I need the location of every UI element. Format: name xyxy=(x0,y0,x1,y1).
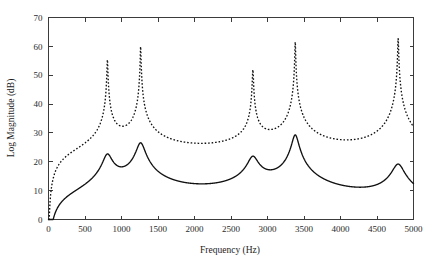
dotted-response-curve xyxy=(49,39,414,220)
y-axis-title: Log Magnitude (dB) xyxy=(6,79,17,158)
y-tick-label: 50 xyxy=(34,70,44,80)
x-tick-label: 3500 xyxy=(295,224,314,234)
x-axis-ticks xyxy=(49,18,414,220)
x-tick-label: 2000 xyxy=(186,224,205,234)
chart-canvas: 0500100015002000250030003500400045005000… xyxy=(0,0,429,264)
x-tick-label: 1500 xyxy=(149,224,168,234)
axis-frame xyxy=(49,18,414,220)
plot-frame xyxy=(49,18,414,220)
y-tick-label: 20 xyxy=(34,157,44,167)
solid-response-curve xyxy=(49,135,414,220)
x-axis-title: Frequency (Hz) xyxy=(200,245,260,256)
y-axis-tick-labels: 010203040506070 xyxy=(34,13,44,225)
data-series-group xyxy=(49,39,414,220)
x-tick-label: 500 xyxy=(78,224,92,234)
x-tick-label: 4000 xyxy=(332,224,351,234)
x-tick-label: 5000 xyxy=(405,224,424,234)
y-tick-label: 70 xyxy=(34,13,44,23)
x-tick-label: 3000 xyxy=(259,224,278,234)
x-tick-label: 1000 xyxy=(113,224,132,234)
x-tick-label: 4500 xyxy=(368,224,387,234)
y-tick-label: 0 xyxy=(38,215,43,225)
y-tick-label: 30 xyxy=(34,128,44,138)
y-tick-label: 10 xyxy=(34,186,44,196)
figure-container: 0500100015002000250030003500400045005000… xyxy=(0,0,429,264)
y-axis-ticks xyxy=(49,18,414,220)
y-tick-label: 60 xyxy=(34,42,44,52)
x-tick-label: 2500 xyxy=(222,224,241,234)
x-tick-label: 0 xyxy=(46,224,51,234)
x-axis-tick-labels: 0500100015002000250030003500400045005000 xyxy=(46,224,423,234)
y-tick-label: 40 xyxy=(34,99,44,109)
